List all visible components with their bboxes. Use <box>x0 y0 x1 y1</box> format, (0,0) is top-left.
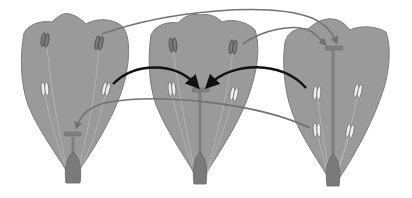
anther-low-left <box>168 82 177 97</box>
anther-mid-left <box>313 86 322 101</box>
anther-low-left <box>313 123 321 137</box>
stigma-low <box>64 132 81 136</box>
flower-long-styled <box>284 19 390 186</box>
anther-mid-left <box>41 82 50 97</box>
anther-high-left <box>169 38 178 53</box>
flower-short-styled <box>21 13 128 183</box>
stigma-high <box>325 46 343 50</box>
stigma-mid <box>192 88 209 92</box>
tristyly-pollination-diagram <box>0 0 412 198</box>
